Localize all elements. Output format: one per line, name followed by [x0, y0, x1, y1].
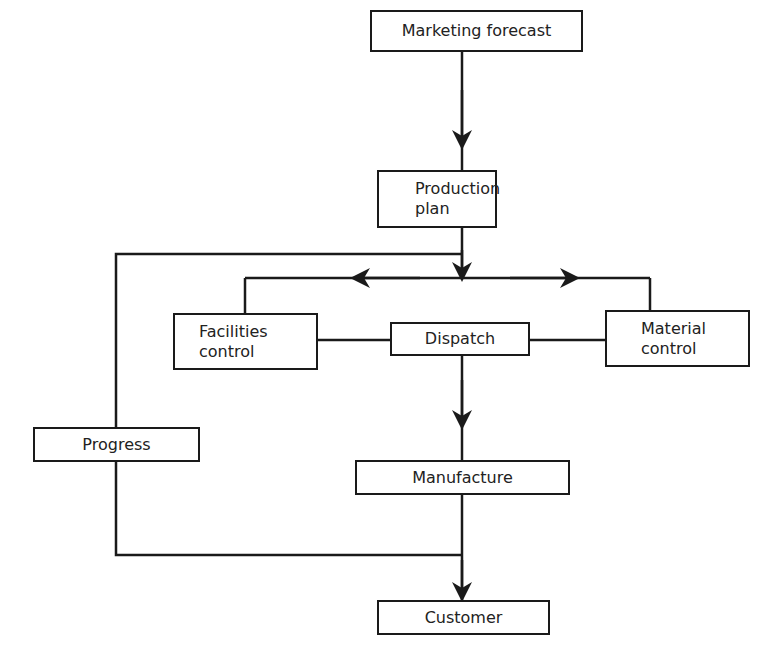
node-facilities-control: Facilities control — [173, 313, 318, 370]
node-customer: Customer — [377, 600, 550, 635]
node-dispatch: Dispatch — [390, 322, 530, 356]
node-label: Production plan — [415, 179, 500, 219]
node-marketing-forecast: Marketing forecast — [370, 10, 583, 52]
node-label: Marketing forecast — [402, 21, 552, 41]
node-label: Material control — [641, 319, 706, 359]
node-label: Customer — [425, 608, 503, 628]
node-progress: Progress — [33, 427, 200, 462]
node-material-control: Material control — [605, 310, 750, 367]
node-label: Progress — [82, 435, 150, 455]
node-production-plan: Production plan — [377, 170, 497, 228]
node-label: Facilities control — [199, 322, 268, 362]
node-manufacture: Manufacture — [355, 460, 570, 495]
node-label: Manufacture — [412, 468, 513, 488]
node-label: Dispatch — [425, 329, 495, 349]
